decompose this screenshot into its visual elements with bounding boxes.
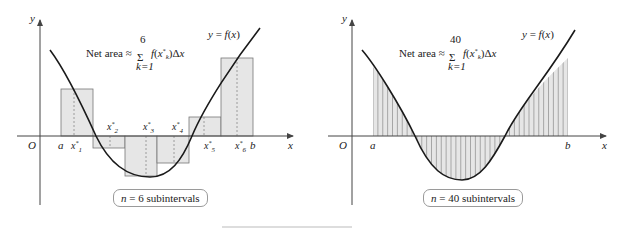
riemann-sum-figure: y x O a b y = f(x) x*1 x*2 x*3 x*4 x*5 x… xyxy=(0,0,622,229)
rect-6 xyxy=(221,58,253,136)
svg-text:x*5: x*5 xyxy=(203,140,215,154)
y-axis-label: y xyxy=(29,12,35,24)
caption-n40: n = 40 subintervals xyxy=(423,189,523,207)
svg-text:k=1: k=1 xyxy=(136,60,154,72)
svg-text:40: 40 xyxy=(450,33,462,45)
net-area-formula: Net area ≈ Σ 6 k=1 f(x*k)Δx xyxy=(86,33,184,72)
a-label: a xyxy=(58,139,64,151)
net-area-formula: Net area ≈ Σ 40 k=1 f(x*k)Δx xyxy=(399,33,496,72)
svg-text:k=1: k=1 xyxy=(448,60,466,72)
x-axis-label: x xyxy=(287,139,293,151)
svg-text:Net area ≈: Net area ≈ xyxy=(399,47,445,59)
svg-text:6: 6 xyxy=(140,33,146,45)
x-axis-label: x xyxy=(601,139,607,151)
svg-text:x*3: x*3 xyxy=(142,121,154,135)
svg-text:x*2: x*2 xyxy=(106,121,118,135)
svg-text:x*6: x*6 xyxy=(234,140,246,154)
svg-text:x*4: x*4 xyxy=(171,121,183,135)
svg-text:Net area ≈: Net area ≈ xyxy=(86,47,132,59)
a-label: a xyxy=(370,139,376,151)
svg-text:f(x*k)Δx: f(x*k)Δx xyxy=(151,47,184,61)
svg-text:f(x*k)Δx: f(x*k)Δx xyxy=(463,47,496,61)
right-panel: y x O a b y = f(x) Net area ≈ Σ 40 k=1 f… xyxy=(328,12,607,205)
rect-4 xyxy=(157,136,189,163)
curve-label: y = f(x) xyxy=(521,28,554,41)
b-label: b xyxy=(250,139,256,151)
origin-label: O xyxy=(28,139,36,151)
y-axis-label: y xyxy=(341,12,347,24)
svg-text:x*1: x*1 xyxy=(70,140,82,154)
curve-label: y = f(x) xyxy=(207,28,240,41)
b-label: b xyxy=(565,139,571,151)
origin-label: O xyxy=(339,139,347,151)
rect-3 xyxy=(125,136,157,176)
riemann-rectangles xyxy=(61,58,253,176)
caption-n6: n = 6 subintervals xyxy=(113,189,208,207)
riemann-fill-40 xyxy=(373,40,568,190)
left-panel: y x O a b y = f(x) x*1 x*2 x*3 x*4 x*5 x… xyxy=(17,12,293,205)
rect-2 xyxy=(93,136,125,148)
